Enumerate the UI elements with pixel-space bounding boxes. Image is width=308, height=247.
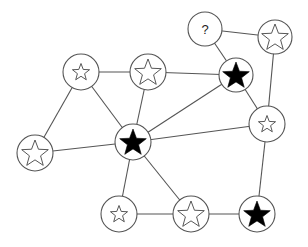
node-n5 <box>219 58 253 92</box>
node-n9 <box>101 196 137 232</box>
node-n10 <box>173 196 209 232</box>
edge-n6-n7 <box>133 124 267 142</box>
node-n1 <box>63 54 99 90</box>
node-n8 <box>17 135 53 171</box>
node-n4 <box>258 20 292 54</box>
node-n7 <box>115 124 151 160</box>
node-n3: ? <box>188 12 222 46</box>
nodes-layer: ? <box>17 12 292 232</box>
node-n11 <box>239 196 275 232</box>
node-n2 <box>130 54 166 90</box>
question-mark-label: ? <box>201 22 208 37</box>
star-graph-diagram: ? <box>0 0 308 247</box>
graph-canvas: ? <box>0 0 308 247</box>
node-n6 <box>249 106 285 142</box>
